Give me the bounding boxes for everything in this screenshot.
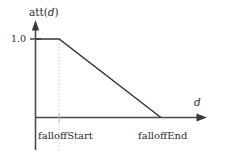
y-tick-label-1.0: 1.0 [11,34,26,44]
x-axis-arrow-icon [197,114,208,122]
x-tick-label-falloff-end: falloffEnd [138,131,187,141]
y-axis-label-variable: d [48,6,55,18]
x-tick-label-falloff-start: falloffStart [38,131,93,141]
y-axis-label: att(d) [29,7,59,18]
y-axis-label-suffix: ) [55,6,59,18]
chart-plot-area [0,0,225,153]
attenuation-falloff-chart: att(d) 1.0 falloffStart falloffEnd d [0,0,225,153]
y-axis-arrow-icon [32,20,39,31]
attenuation-curve [36,39,161,118]
x-axis-label: d [194,97,201,108]
y-axis-label-prefix: att( [29,6,48,18]
